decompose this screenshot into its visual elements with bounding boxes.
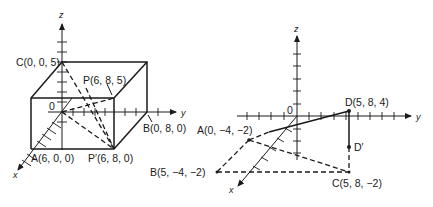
point-a-label: A(6, 0, 0) — [31, 152, 74, 164]
point-a-label: A(0, −4, −2) — [197, 124, 252, 136]
point-c — [348, 171, 351, 174]
y-axis-label: y — [180, 108, 186, 118]
point-d — [347, 109, 351, 113]
z-axis-label: z — [293, 24, 299, 34]
point-c-label: C(5, 8, −2) — [332, 177, 382, 189]
point-b-label: B(5, −4, −2) — [150, 166, 205, 178]
b-leader — [148, 115, 152, 122]
point-b-label: B(0, 8, 0) — [143, 122, 186, 134]
point-d-label: D(5, 8, 4) — [345, 96, 389, 108]
point-p-prime-label: P′(6, 8, 0) — [88, 152, 133, 164]
origin-label: 0 — [49, 100, 55, 112]
z-axis-label: z — [58, 10, 64, 20]
point-b — [216, 171, 219, 174]
origin-label: 0 — [287, 104, 293, 116]
left-figure: z y x 0 C(0, 0, 5) P(6, 8, 5) B(0, 8, 0)… — [12, 10, 186, 180]
x-axis-label: x — [12, 170, 18, 180]
point-d-prime-label: D′ — [354, 141, 364, 153]
x-axis-label: x — [228, 185, 234, 195]
point-a — [247, 138, 251, 142]
point-c-label: C(0, 0, 5) — [16, 56, 60, 68]
right-figure: z y x 0 D(5, 8, 4) D′ A(0, −4, −2) B(5, … — [150, 24, 421, 195]
diagram-canvas: z y x 0 C(0, 0, 5) P(6, 8, 5) B(0, 8, 0)… — [0, 0, 433, 207]
x-ticks — [253, 128, 292, 170]
point-d-prime — [347, 145, 351, 149]
point-p-label: P(6, 8, 5) — [83, 74, 126, 86]
dashed-segments — [217, 132, 349, 172]
y-axis-label: y — [415, 112, 421, 122]
